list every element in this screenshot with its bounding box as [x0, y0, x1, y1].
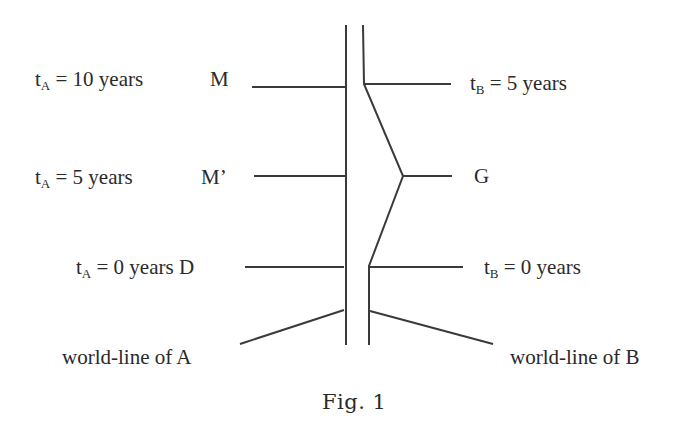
label-ta-10: tA = 10 years	[35, 67, 143, 91]
figure-caption: Fig. 1	[322, 390, 386, 414]
label-ta-0-d: tA = 0 years D	[76, 255, 194, 279]
label-event-m: M	[210, 67, 229, 91]
worldline-b	[363, 25, 403, 345]
label-event-mprime: M’	[201, 165, 227, 189]
label-tb-5: tB = 5 years	[470, 71, 567, 95]
label-worldline-a: world-line of A	[62, 345, 191, 369]
label-worldline-b: world-line of B	[510, 345, 639, 369]
pointer-b	[370, 311, 493, 344]
pointer-a	[240, 310, 344, 344]
label-ta-5: tA = 5 years	[35, 165, 133, 189]
label-event-g: G	[474, 164, 489, 188]
label-tb-0: tB = 0 years	[484, 255, 581, 279]
